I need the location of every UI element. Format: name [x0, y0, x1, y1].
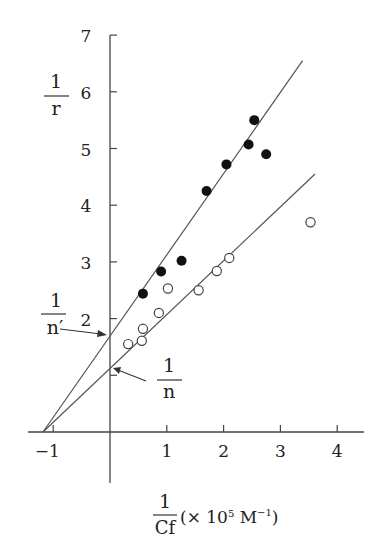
- x-tick-label: 4: [332, 441, 343, 461]
- fit-lines: [43, 61, 315, 432]
- annotation-1-over-n: 1 n: [113, 354, 182, 402]
- open-data-point: [154, 308, 163, 317]
- y-tick-label: 3: [81, 253, 92, 273]
- y-tick-label: 5: [81, 140, 92, 160]
- open-data-point: [306, 218, 315, 227]
- annotation-n-prime-denominator: n′: [47, 316, 64, 338]
- axes: [28, 35, 364, 483]
- arrow-n: [118, 370, 146, 381]
- scatter-chart: 234567 −11234 1 r 1 n′ 1 n 1 Cf (× 105 M…: [0, 0, 384, 545]
- y-tick-label: 4: [81, 196, 92, 216]
- x-tick-label: −1: [35, 441, 60, 461]
- x-axis-label: 1 Cf (× 105 M−1): [153, 490, 279, 538]
- x-label-denominator: Cf: [155, 517, 177, 538]
- open-data-point: [137, 336, 146, 345]
- arrow-n-prime: [60, 329, 101, 334]
- annotation-n-numerator: 1: [163, 354, 175, 376]
- y-tick-label: 7: [81, 26, 92, 46]
- open-data-point: [138, 324, 147, 333]
- y-ticks: 234567: [81, 26, 117, 375]
- filled-data-point: [177, 256, 187, 266]
- x-tick-label: 3: [275, 441, 286, 461]
- y-label-denominator: r: [51, 97, 61, 119]
- x-tick-label: 1: [161, 441, 172, 461]
- filled-data-point: [244, 140, 254, 150]
- fit-line: [43, 61, 303, 432]
- y-label-numerator: 1: [50, 70, 62, 92]
- arrowhead-n-prime-icon: [97, 330, 107, 337]
- filled-data-point: [138, 289, 148, 299]
- filled-data-point: [261, 149, 271, 159]
- filled-data-point: [156, 267, 166, 277]
- open-data-point: [212, 266, 221, 275]
- open-data-point: [124, 340, 133, 349]
- open-data-point: [225, 253, 234, 262]
- arrowhead-n-icon: [113, 367, 121, 374]
- open-data-point: [163, 284, 172, 293]
- x-ticks: −11234: [35, 425, 343, 461]
- annotation-n-prime-numerator: 1: [50, 289, 62, 311]
- y-tick-label: 6: [81, 83, 92, 103]
- x-label-unit: (× 105 M−1): [180, 507, 279, 527]
- x-label-numerator: 1: [159, 490, 171, 512]
- data-points: [124, 115, 316, 349]
- filled-data-point: [221, 159, 231, 169]
- y-tick-label: 2: [81, 310, 92, 330]
- open-data-point: [194, 286, 203, 295]
- filled-data-point: [249, 115, 259, 125]
- annotation-n-denominator: n: [163, 380, 175, 402]
- filled-data-point: [202, 186, 212, 196]
- y-axis-label: 1 r: [44, 70, 69, 119]
- annotation-1-over-n-prime: 1 n′: [41, 289, 107, 338]
- x-tick-label: 2: [218, 441, 229, 461]
